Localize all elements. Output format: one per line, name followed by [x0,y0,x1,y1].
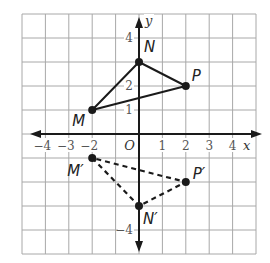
coordinate-plane: −4−3−21234Ox421−4y MNP M′N′P′ [0,0,270,263]
y-axis-label: y [144,13,153,28]
x-axis-left-arrow-icon [30,130,41,138]
y-tick-label: 2 [125,79,133,93]
x-tick-label: 4 [229,139,237,153]
y-tick-label: −4 [115,223,133,237]
vertex-point [88,154,96,162]
y-axis-down-arrow-icon [135,241,143,252]
y-axis-up-arrow-icon [135,17,143,28]
vertex-point [88,106,96,114]
x-tick-label: −4 [34,139,52,153]
triangle-m-prime-n-prime-p-prime: M′N′P′ [67,154,206,228]
y-tick-label: 1 [125,103,133,117]
coordinate-plane-diagram: −4−3−21234Ox421−4y MNP M′N′P′ [0,0,270,263]
x-tick-label: −3 [57,139,75,153]
x-tick-label: −2 [80,139,98,153]
vertex-point [182,82,190,90]
origin-label: O [124,138,135,153]
x-tick-label: 2 [182,139,190,153]
tick-labels: −4−3−21234Ox421−4y [34,13,252,237]
vertex-label: N [144,38,155,56]
vertex-label: M′ [67,162,84,180]
x-tick-label: 1 [159,139,167,153]
y-tick-label: 4 [125,31,133,45]
x-tick-label: 3 [205,139,213,153]
vertex-label: P′ [193,165,206,183]
vertex-point [182,178,190,186]
vertex-point [135,58,143,66]
vertex-label: M [72,112,85,130]
triangle-mnp: MNP [72,38,202,130]
x-axis-label: x [243,138,251,153]
vertex-point [135,202,143,210]
vertex-label: N′ [143,210,158,228]
vertex-label: P [192,67,202,85]
